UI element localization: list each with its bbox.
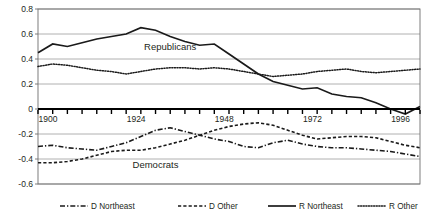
x-tick-label: 1924 (127, 114, 146, 124)
annotation-label: Republicans (144, 41, 197, 52)
y-tick-label: -0.4 (18, 154, 33, 164)
series-d-northeast (38, 128, 420, 157)
y-tick-label: 0.8 (21, 4, 33, 14)
x-tick-label: 1900 (39, 114, 58, 124)
legend-label-r-northeast: R Northeast (299, 202, 343, 211)
gridlines (38, 9, 420, 184)
legend-label-d-other: D Other (209, 202, 238, 211)
y-tick-label: -0.2 (18, 129, 33, 139)
series-r-other (38, 64, 420, 77)
y-tick-label: 0.6 (21, 29, 33, 39)
series-d-other (38, 123, 420, 163)
x-tick-label: 1996 (391, 114, 410, 124)
plot-border (38, 9, 420, 184)
y-axis-tick-labels: 0.80.60.40.20-0.2-0.4-0.6 (18, 4, 38, 189)
legend-label-r-other: R Other (389, 202, 418, 211)
chart-annotations: RepublicansDemocrats (133, 41, 197, 170)
chart-figure: 0.80.60.40.20-0.2-0.4-0.6 19001924194819… (0, 0, 425, 221)
annotation-label: Democrats (133, 159, 179, 170)
data-series-group (38, 28, 420, 163)
y-tick-label: 0.4 (21, 54, 33, 64)
x-tick-label: 1948 (215, 114, 234, 124)
plot-frame (38, 9, 420, 184)
party-vote-share-line-chart: 0.80.60.40.20-0.2-0.4-0.6 19001924194819… (0, 0, 425, 221)
legend-label-d-northeast: D Northeast (91, 202, 135, 211)
x-axis-tick-labels: 19001924194819721996 (39, 114, 411, 124)
zero-axis-line (38, 109, 420, 114)
y-tick-label: -0.6 (18, 179, 33, 189)
y-tick-label: 0.2 (21, 79, 33, 89)
x-tick-label: 1972 (303, 114, 322, 124)
series-r-northeast (38, 28, 420, 114)
y-tick-label: 0 (28, 104, 33, 114)
chart-legend: D NortheastD OtherR NortheastR Other (60, 202, 418, 211)
